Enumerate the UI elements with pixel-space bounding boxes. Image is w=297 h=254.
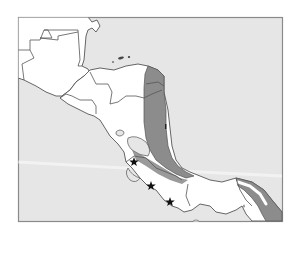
island-pearl	[243, 205, 245, 208]
corn-islands	[165, 124, 166, 129]
map-of-central-america	[0, 0, 297, 254]
bay-island-small	[128, 56, 130, 58]
bay-island-small	[112, 61, 114, 63]
lake-managua	[116, 130, 124, 136]
